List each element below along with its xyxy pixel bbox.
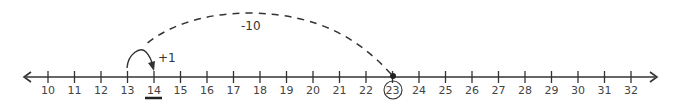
plus-one-arrowhead-icon xyxy=(148,61,155,71)
tick-label: 19 xyxy=(280,84,294,97)
tick-label: 18 xyxy=(253,84,267,97)
tick-label: 29 xyxy=(545,84,559,97)
number-line-svg: 1011121314151617181920212223242526272829… xyxy=(0,0,673,110)
minus-ten-label: -10 xyxy=(241,19,261,33)
tick-label: 32 xyxy=(624,84,638,97)
ticks-group: 1011121314151617181920212223242526272829… xyxy=(41,71,638,97)
start-point-dot xyxy=(390,73,396,79)
number-line-diagram: 1011121314151617181920212223242526272829… xyxy=(0,0,673,110)
tick-label: 10 xyxy=(41,84,55,97)
tick-label: 20 xyxy=(306,84,320,97)
tick-label: 31 xyxy=(598,84,612,97)
tick-label: 13 xyxy=(121,84,135,97)
tick-label: 30 xyxy=(571,84,585,97)
tick-label: 27 xyxy=(492,84,506,97)
tick-label: 17 xyxy=(227,84,241,97)
tick-label: 24 xyxy=(412,84,426,97)
plus-one-jump-arc xyxy=(127,50,153,68)
tick-label: 26 xyxy=(465,84,479,97)
tick-label: 12 xyxy=(94,84,108,97)
tick-label: 15 xyxy=(174,84,188,97)
tick-label: 21 xyxy=(333,84,347,97)
tick-label: 16 xyxy=(200,84,214,97)
tick-label: 11 xyxy=(68,84,82,97)
tick-label: 28 xyxy=(518,84,532,97)
tick-label: 23 xyxy=(386,84,400,97)
plus-one-label: +1 xyxy=(158,51,176,65)
minus-ten-jump-arc xyxy=(145,13,391,74)
tick-label: 14 xyxy=(147,84,161,97)
tick-label: 25 xyxy=(439,84,453,97)
tick-label: 22 xyxy=(359,84,373,97)
